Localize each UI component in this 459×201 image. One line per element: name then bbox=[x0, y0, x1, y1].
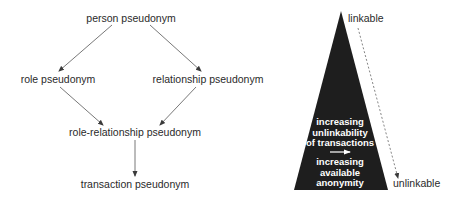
edge-person-to-role bbox=[59, 25, 112, 71]
caption-line: of transactions bbox=[306, 138, 374, 149]
caption-line: increasing bbox=[316, 157, 364, 168]
node-role-pseudonym: role pseudonym bbox=[21, 73, 96, 85]
anonymity-caption: increasing available anonymity bbox=[316, 157, 364, 189]
node-transaction-pseudonym: transaction pseudonym bbox=[81, 178, 190, 190]
node-relationship-pseudonym: relationship pseudonym bbox=[153, 73, 264, 85]
edge-person-to-relationship bbox=[150, 25, 201, 71]
unlinkable-label: unlinkable bbox=[393, 177, 440, 189]
edge-role-to-role-relationship bbox=[60, 87, 103, 125]
linkable-label: linkable bbox=[348, 12, 384, 24]
unlinkability-caption: increasing unlinkability of transactions bbox=[306, 117, 374, 149]
node-role-relationship-pseudonym: role-relationship pseudonym bbox=[69, 126, 201, 138]
caption-line: anonymity bbox=[316, 178, 364, 189]
node-person-pseudonym: person pseudonym bbox=[86, 12, 175, 24]
diagram-canvas bbox=[0, 0, 459, 201]
edge-relationship-to-role-relationship bbox=[160, 87, 196, 125]
caption-line: increasing bbox=[306, 117, 374, 128]
